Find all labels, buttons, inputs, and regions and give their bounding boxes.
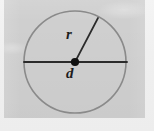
radius-line bbox=[75, 18, 98, 62]
circle-diagram-svg bbox=[0, 0, 154, 131]
figure-canvas: r d bbox=[0, 0, 154, 131]
radius-label: r bbox=[66, 27, 72, 42]
diameter-label: d bbox=[66, 66, 74, 81]
